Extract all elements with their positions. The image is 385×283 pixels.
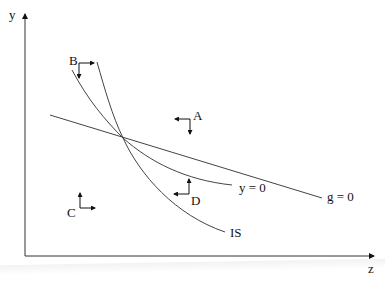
g-zero-line-label: g = 0 (327, 190, 354, 203)
y-zero-curve (72, 70, 232, 185)
region-b-label: B (69, 54, 78, 67)
is-curve (97, 62, 225, 232)
z-axis-label: z (368, 262, 374, 275)
region-a-arrows (175, 119, 190, 134)
y-axis-label: y (9, 8, 16, 21)
region-a-label: A (193, 109, 202, 122)
region-c-arrows (80, 193, 95, 208)
phase-diagram (0, 0, 385, 283)
g-zero-line (50, 115, 322, 198)
y-zero-curve-label: y = 0 (239, 181, 266, 194)
region-c-label: C (67, 206, 76, 219)
region-d-arrows (174, 179, 189, 194)
region-d-label: D (191, 194, 200, 207)
region-b-arrows (79, 63, 94, 78)
is-curve-label: IS (230, 226, 242, 239)
